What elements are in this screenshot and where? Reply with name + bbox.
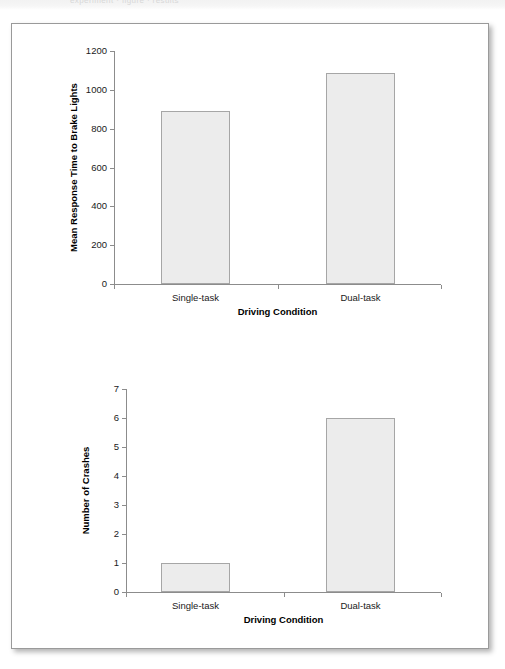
x-tick-response-time-1 — [278, 285, 279, 289]
y-axis-line-number-of-crashes — [126, 389, 127, 593]
scan-ghost-text: experiment · figure · results — [70, 0, 179, 5]
y-tick-number-of-crashes-2 — [122, 534, 126, 535]
y-axis-line-response-time — [114, 51, 115, 285]
x-tick-response-time-0 — [114, 285, 115, 289]
bar-number-of-crashes-single-task — [161, 563, 230, 592]
x-tick-number-of-crashes-0 — [126, 593, 127, 597]
x-category-label-response-time-0: Single-task — [141, 292, 250, 303]
x-tick-number-of-crashes-1 — [284, 593, 285, 597]
bar-response-time-single-task — [161, 111, 230, 284]
x-category-label-response-time-1: Dual-task — [306, 292, 415, 303]
y-tick-response-time-5 — [110, 90, 114, 91]
x-axis-title-response-time: Driving Condition — [114, 306, 441, 317]
y-tick-response-time-1 — [110, 245, 114, 246]
bar-response-time-dual-task — [326, 73, 395, 284]
x-tick-number-of-crashes-2 — [441, 593, 442, 597]
y-tick-response-time-3 — [110, 168, 114, 169]
y-tick-response-time-4 — [110, 129, 114, 130]
x-axis-title-number-of-crashes: Driving Condition — [126, 614, 441, 625]
figure-frame: 020040060080010001200Single-taskDual-tas… — [11, 23, 489, 649]
y-tick-number-of-crashes-3 — [122, 505, 126, 506]
y-tick-number-of-crashes-6 — [122, 418, 126, 419]
y-axis-title-response-time: Mean Response Time to Brake Lights — [68, 51, 79, 284]
bar-number-of-crashes-dual-task — [326, 418, 395, 592]
y-tick-number-of-crashes-5 — [122, 447, 126, 448]
y-tick-response-time-6 — [110, 51, 114, 52]
y-tick-number-of-crashes-7 — [122, 389, 126, 390]
y-axis-title-number-of-crashes: Number of Crashes — [80, 389, 91, 592]
x-category-label-number-of-crashes-1: Dual-task — [306, 600, 415, 611]
y-tick-number-of-crashes-1 — [122, 563, 126, 564]
y-tick-number-of-crashes-4 — [122, 476, 126, 477]
x-category-label-number-of-crashes-0: Single-task — [141, 600, 250, 611]
x-tick-response-time-2 — [441, 285, 442, 289]
scan-top-strip: experiment · figure · results — [0, 0, 505, 10]
y-tick-response-time-2 — [110, 206, 114, 207]
